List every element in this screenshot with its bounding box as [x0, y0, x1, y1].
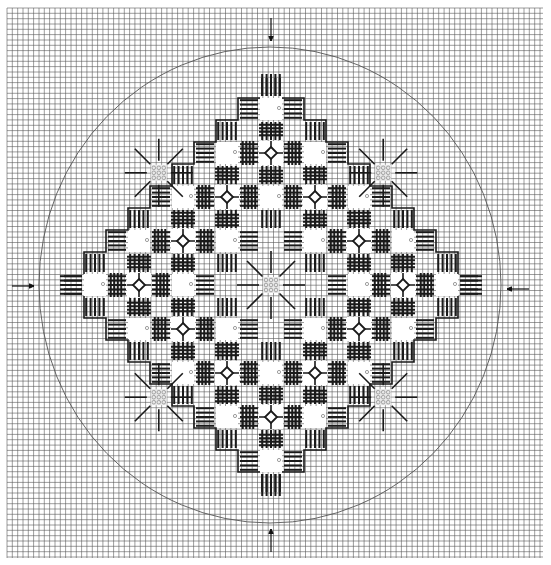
open-square-motif: [240, 342, 302, 404]
open-square: [304, 142, 326, 164]
dotted-center: [375, 389, 391, 405]
open-square: [216, 318, 238, 340]
open-square: [172, 274, 194, 296]
starburst-motif: [237, 251, 305, 319]
dotted-center: [151, 389, 167, 405]
open-square-motif: [372, 210, 434, 272]
open-square: [392, 230, 414, 252]
open-square: [216, 406, 238, 428]
open-square: [348, 274, 370, 296]
open-square: [260, 186, 282, 208]
open-square: [392, 318, 414, 340]
starburst-ray: [392, 149, 408, 165]
open-square: [436, 274, 458, 296]
open-square-motif: [108, 298, 170, 360]
open-square: [128, 318, 150, 340]
starburst-ray: [135, 149, 151, 165]
open-square-motif: [372, 298, 434, 360]
bottom-arrow: [269, 529, 273, 552]
open-square: [128, 230, 150, 252]
starburst-ray: [359, 149, 375, 165]
starburst-motif: [125, 139, 193, 207]
starburst-motif: [125, 363, 193, 431]
open-square-motif: [108, 210, 170, 272]
starburst-ray: [167, 149, 183, 165]
open-square: [84, 274, 106, 296]
open-square-motif: [240, 166, 302, 228]
stitch-pattern: [60, 74, 482, 496]
open-square: [216, 142, 238, 164]
open-square-motif: [284, 386, 346, 448]
dotted-center: [375, 165, 391, 181]
open-square: [304, 406, 326, 428]
open-square: [304, 318, 326, 340]
open-square-motif: [196, 122, 258, 184]
open-square: [260, 362, 282, 384]
open-square: [216, 230, 238, 252]
starburst-motif: [349, 363, 417, 431]
open-square: [260, 98, 282, 120]
stitch-chart: [0, 0, 551, 565]
dotted-center: [263, 277, 279, 293]
dotted-center: [151, 165, 167, 181]
open-square: [260, 450, 282, 472]
open-square: [304, 230, 326, 252]
starburst-motif: [349, 139, 417, 207]
open-square-motif: [284, 122, 346, 184]
open-square-motif: [196, 386, 258, 448]
arrow-head-icon: [269, 529, 273, 534]
